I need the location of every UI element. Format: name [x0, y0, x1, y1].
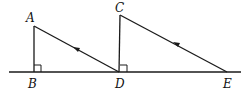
geometry-diagram: A B C D E	[0, 0, 241, 95]
label-a: A	[25, 11, 35, 25]
segment-ce	[120, 15, 227, 72]
label-d: D	[114, 77, 125, 91]
arrow-icon-ad	[73, 47, 80, 52]
label-c: C	[115, 1, 124, 15]
right-angle-marker-b	[34, 65, 41, 72]
right-angle-marker-d	[120, 65, 127, 72]
label-b: B	[27, 77, 37, 91]
segment-cd	[119, 15, 120, 72]
label-e: E	[222, 77, 232, 91]
